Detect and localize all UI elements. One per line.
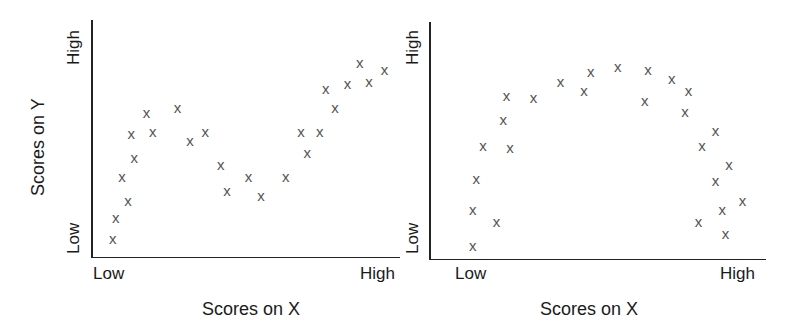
data-point-x-marker: x (214, 158, 228, 172)
data-point-x-marker: x (476, 139, 490, 153)
data-point-x-marker: x (183, 134, 197, 148)
data-point-x-marker: x (692, 215, 706, 229)
right-scatter-panel: High Low xxxxxxxxxxxxxxxxxxxxxxxxxx Low … (400, 0, 797, 332)
data-point-x-marker: x (708, 124, 722, 138)
data-point-x-marker: x (678, 105, 692, 119)
data-point-x-marker: x (220, 184, 234, 198)
data-point-x-marker: x (469, 172, 483, 186)
data-point-x-marker: x (708, 174, 722, 188)
data-point-x-marker: x (313, 125, 327, 139)
data-point-x-marker: x (722, 158, 736, 172)
x-tick-low: Low (455, 264, 486, 284)
data-point-x-marker: x (466, 239, 480, 253)
data-point-x-marker: x (340, 77, 354, 91)
y-tick-high: High (403, 30, 423, 65)
data-point-x-marker: x (362, 75, 376, 89)
data-point-x-marker: x (319, 82, 333, 96)
data-point-x-marker: x (735, 194, 749, 208)
data-point-x-marker: x (378, 63, 392, 77)
data-point-x-marker: x (715, 203, 729, 217)
data-point-x-marker: x (127, 151, 141, 165)
data-point-x-marker: x (496, 113, 510, 127)
data-point-x-marker: x (641, 63, 655, 77)
data-point-x-marker: x (115, 170, 129, 184)
x-axis (91, 257, 400, 259)
data-point-x-marker: x (171, 101, 185, 115)
data-point-x-marker: x (121, 194, 135, 208)
x-axis-label: Scores on X (202, 299, 300, 320)
right-plot-area: xxxxxxxxxxxxxxxxxxxxxxxxxx (429, 22, 766, 260)
data-point-x-marker: x (146, 125, 160, 139)
data-point-x-marker: x (254, 189, 268, 203)
y-axis-label: Scores on Y (28, 98, 49, 196)
data-point-x-marker: x (665, 72, 679, 86)
y-tick-low: Low (64, 223, 84, 254)
data-point-x-marker: x (553, 75, 567, 89)
data-point-x-marker: x (500, 89, 514, 103)
y-tick-low: Low (403, 223, 423, 254)
x-tick-low: Low (93, 264, 124, 284)
data-point-x-marker: x (503, 141, 517, 155)
data-point-x-marker: x (489, 215, 503, 229)
data-point-x-marker: x (106, 232, 120, 246)
data-point-x-marker: x (719, 227, 733, 241)
data-point-x-marker: x (611, 60, 625, 74)
x-axis-label: Scores on X (540, 299, 638, 320)
data-point-x-marker: x (140, 106, 154, 120)
data-point-x-marker: x (681, 84, 695, 98)
x-tick-high: High (360, 264, 395, 284)
y-tick-high: High (64, 30, 84, 65)
data-point-x-marker: x (198, 125, 212, 139)
left-plot-area: xxxxxxxxxxxxxxxxxxxxxxxxx (91, 20, 400, 258)
x-axis (429, 259, 766, 261)
data-point-x-marker: x (124, 127, 138, 141)
y-axis (429, 22, 431, 260)
y-axis (91, 20, 93, 258)
data-point-x-marker: x (638, 94, 652, 108)
left-scatter-panel: Scores on Y High Low xxxxxxxxxxxxxxxxxxx… (0, 0, 420, 332)
data-point-x-marker: x (300, 146, 314, 160)
data-point-x-marker: x (242, 170, 256, 184)
data-point-x-marker: x (294, 125, 308, 139)
data-point-x-marker: x (466, 203, 480, 217)
data-point-x-marker: x (526, 91, 540, 105)
data-point-x-marker: x (328, 101, 342, 115)
data-point-x-marker: x (279, 170, 293, 184)
data-point-x-marker: x (695, 139, 709, 153)
data-point-x-marker: x (109, 211, 123, 225)
x-tick-high: High (720, 264, 755, 284)
data-point-x-marker: x (577, 84, 591, 98)
data-point-x-marker: x (353, 56, 367, 70)
data-point-x-marker: x (584, 65, 598, 79)
